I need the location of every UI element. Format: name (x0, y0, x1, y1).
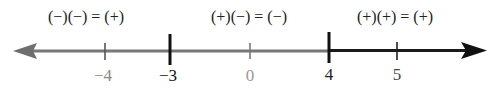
tick-label-5: 5 (393, 65, 402, 85)
rule-interval-2: (+)(−) = (−) (211, 8, 287, 26)
tick-label-neg4: −4 (94, 66, 112, 86)
rule-interval-1: (−)(−) = (+) (48, 8, 124, 26)
rule-interval-3: (+)(+) = (+) (357, 8, 433, 26)
tick-label-neg3: −3 (159, 66, 177, 86)
number-line-diagram: (−)(−) = (+) (+)(−) = (−) (+)(+) = (+) −… (0, 0, 488, 94)
tick-label-0: 0 (246, 66, 255, 86)
tick-label-4: 4 (325, 65, 334, 85)
